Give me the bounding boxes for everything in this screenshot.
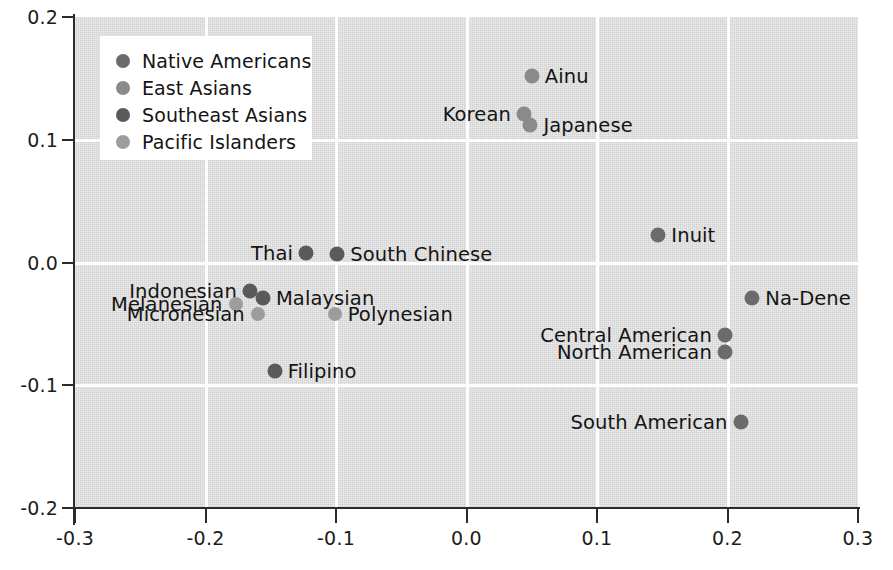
data-point[interactable] <box>330 246 345 261</box>
data-point[interactable] <box>651 228 666 243</box>
data-point[interactable] <box>298 245 313 260</box>
y-tick-mark <box>62 139 75 141</box>
data-point[interactable] <box>255 291 270 306</box>
data-point[interactable] <box>717 345 732 360</box>
x-tick-mark <box>466 509 468 523</box>
legend-item-label: Pacific Islanders <box>142 131 296 153</box>
x-tick-label: 0.2 <box>683 527 773 549</box>
data-point[interactable] <box>745 291 760 306</box>
x-tick-mark <box>74 509 76 523</box>
legend-marker-icon <box>116 81 130 95</box>
y-tick-mark <box>62 16 75 18</box>
y-tick-mark <box>62 262 75 264</box>
legend-marker-icon <box>116 135 130 149</box>
y-axis-line <box>73 14 75 525</box>
data-point[interactable] <box>251 307 265 321</box>
y-tick-mark <box>62 384 75 386</box>
x-tick-mark <box>205 509 207 523</box>
data-point-label: Ainu <box>545 64 589 87</box>
data-point[interactable] <box>733 415 748 430</box>
data-point[interactable] <box>524 68 539 83</box>
data-point[interactable] <box>267 363 282 378</box>
data-point-label: South Chinese <box>350 242 492 265</box>
y-tick-label: -0.2 <box>0 497 58 519</box>
data-point-label: North American <box>557 341 712 364</box>
y-tick-label: 0.0 <box>0 252 58 274</box>
legend-item[interactable]: Southeast Asians <box>116 101 312 128</box>
x-tick-label: 0.1 <box>552 527 642 549</box>
data-point-label: Inuit <box>671 224 715 247</box>
x-tick-label: -0.1 <box>291 527 381 549</box>
x-tick-label: 0.0 <box>422 527 512 549</box>
y-tick-label: 0.1 <box>0 129 58 151</box>
x-tick-label: -0.3 <box>30 527 120 549</box>
data-point-label: Japanese <box>543 114 632 137</box>
x-tick-mark <box>335 509 337 523</box>
scatter-plot-figure: AinuKoreanJapaneseInuitNa-DeneCentral Am… <box>0 0 893 570</box>
data-point-label: Thai <box>251 241 293 264</box>
data-point-label: Micronesian <box>127 303 245 326</box>
legend-marker-icon <box>116 54 130 68</box>
legend-item[interactable]: East Asians <box>116 74 312 101</box>
legend-item-label: Southeast Asians <box>142 104 307 126</box>
y-tick-label: 0.2 <box>0 6 58 28</box>
data-point[interactable] <box>328 307 342 321</box>
x-tick-label: 0.3 <box>813 527 893 549</box>
data-point-label: Korean <box>443 102 511 125</box>
legend-marker-icon <box>116 108 130 122</box>
legend-item-label: East Asians <box>142 77 252 99</box>
x-tick-label: -0.2 <box>161 527 251 549</box>
y-tick-label: -0.1 <box>0 374 58 396</box>
data-point[interactable] <box>523 118 538 133</box>
data-point-label: Na-Dene <box>765 287 851 310</box>
legend-item-label: Native Americans <box>142 50 311 72</box>
data-point[interactable] <box>717 327 732 342</box>
legend-item[interactable]: Pacific Islanders <box>116 128 312 155</box>
gridline-horizontal <box>75 384 858 387</box>
legend-item[interactable]: Native Americans <box>116 47 312 74</box>
data-point-label: Filipino <box>288 359 357 382</box>
legend: Native AmericansEast AsiansSoutheast Asi… <box>100 36 312 160</box>
x-tick-mark <box>596 509 598 523</box>
data-point-label: Polynesian <box>348 303 453 326</box>
x-tick-mark <box>727 509 729 523</box>
data-point-label: South American <box>570 411 727 434</box>
x-tick-mark <box>857 509 859 523</box>
